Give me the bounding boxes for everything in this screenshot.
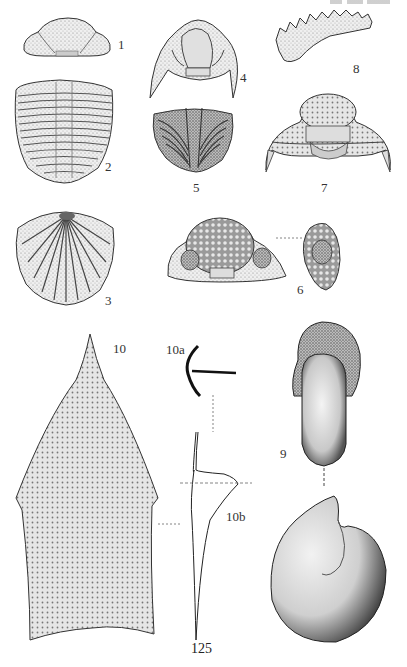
figure-7-illustration [266, 94, 390, 172]
figure-label-10a: 10a [166, 343, 185, 356]
figure-label-9: 9 [280, 447, 287, 460]
figure-1-illustration [24, 18, 110, 56]
figure-label-1: 1 [118, 38, 125, 51]
page-number: 125 [191, 641, 212, 657]
figure-9-lower-illustration [271, 496, 386, 642]
figure-label-3: 3 [105, 294, 112, 307]
figure-10a-illustration [187, 346, 236, 432]
figure-3-illustration [16, 212, 114, 305]
figure-label-4: 4 [240, 71, 247, 84]
figure-label-8: 8 [353, 62, 360, 75]
figure-label-6: 6 [297, 283, 304, 296]
figure-10-illustration [16, 334, 180, 640]
figure-4-illustration [150, 20, 237, 98]
figure-label-7: 7 [321, 181, 328, 194]
plate-illustrations [0, 0, 407, 667]
figure-label-10b: 10b [226, 510, 246, 523]
figure-2-illustration [15, 80, 113, 183]
figure-8-illustration [276, 10, 372, 62]
figure-6-illustration [168, 218, 340, 290]
figure-5-illustration [153, 108, 233, 172]
fossil-plate: 1 2 3 4 5 6 7 8 9 10 10a 10b 125 [0, 0, 407, 667]
figure-10b-illustration [180, 432, 252, 640]
figure-label-5: 5 [193, 181, 200, 194]
figure-label-2: 2 [105, 160, 112, 173]
figure-9-upper-illustration [293, 322, 361, 488]
figure-label-10: 10 [113, 342, 126, 355]
